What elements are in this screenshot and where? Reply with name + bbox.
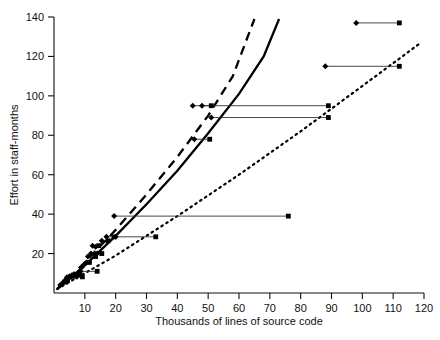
x-tick-label: 10	[79, 302, 91, 314]
y-tick-label: 60	[32, 169, 44, 181]
x-tick-label: 40	[171, 302, 183, 314]
data-point-square	[95, 269, 100, 274]
x-tick-label: 70	[264, 302, 276, 314]
dashed-model-curve	[57, 19, 254, 289]
y-axis-ticks: 20406080100120140	[26, 11, 54, 260]
chart-page: 20406080100120140 1020304050607080901001…	[0, 0, 440, 340]
x-tick-label: 50	[202, 302, 214, 314]
x-tick-label: 90	[325, 302, 337, 314]
x-tick-label: 100	[353, 302, 371, 314]
data-point-square	[326, 103, 331, 108]
data-point-diamond	[190, 103, 196, 109]
data-point-square	[397, 21, 402, 26]
data-point-square	[326, 115, 331, 120]
effort-vs-size-scatter-plot: 20406080100120140 1020304050607080901001…	[0, 0, 440, 340]
x-tick-label: 120	[415, 302, 433, 314]
x-tick-label: 110	[384, 302, 402, 314]
x-tick-label: 60	[233, 302, 245, 314]
data-point-diamond	[111, 213, 117, 219]
model-curves-layer	[57, 19, 421, 289]
data-point-diamond	[199, 103, 205, 109]
data-point-square	[397, 64, 402, 69]
data-point-diamond	[353, 20, 359, 26]
y-tick-label: 100	[26, 90, 44, 102]
y-tick-label: 120	[26, 50, 44, 62]
data-point-square	[209, 103, 214, 108]
x-axis-title: Thousands of lines of source code	[155, 315, 323, 327]
data-point-square	[80, 274, 85, 279]
solid-model-curve	[57, 19, 279, 289]
y-tick-label: 80	[32, 129, 44, 141]
x-axis-ticks: 102030405060708090100110120	[79, 293, 433, 314]
dotted-model-curve	[57, 43, 421, 289]
x-tick-label: 20	[110, 302, 122, 314]
data-point-square	[286, 214, 291, 219]
plot-axes	[54, 17, 424, 293]
y-tick-label: 140	[26, 11, 44, 23]
data-point-square	[87, 260, 92, 265]
x-tick-label: 30	[140, 302, 152, 314]
data-point-square	[207, 137, 212, 142]
data-point-diamond	[322, 63, 328, 69]
data-point-square	[153, 234, 158, 239]
y-tick-label: 40	[32, 208, 44, 220]
data-markers-layer	[57, 20, 402, 288]
x-tick-label: 80	[295, 302, 307, 314]
y-tick-label: 20	[32, 248, 44, 260]
data-point-square	[99, 251, 104, 256]
y-axis-title: Effort in staff-months	[8, 104, 20, 206]
pair-connectors-layer	[63, 23, 399, 282]
